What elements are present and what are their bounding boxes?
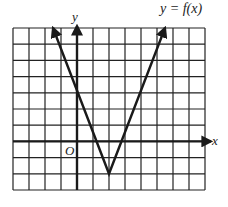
function-graph <box>0 0 228 207</box>
